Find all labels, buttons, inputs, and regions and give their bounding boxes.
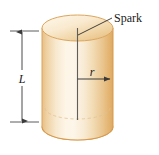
spark-cylinder-figure: r L Spark [0, 0, 159, 155]
cylinder-diagram-canvas: r L Spark [0, 0, 159, 155]
radius-label: r [90, 65, 95, 79]
length-label: L [18, 72, 26, 86]
spark-label: Spark [114, 11, 142, 25]
